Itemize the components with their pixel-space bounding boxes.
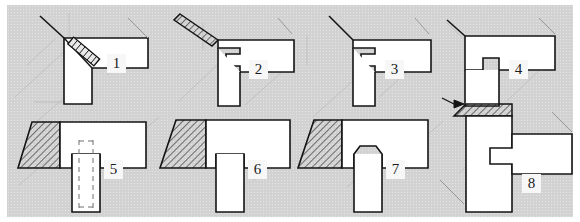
- joint-detail-3: 3: [305, 10, 433, 106]
- panel-number-3: 3: [385, 60, 404, 79]
- joint-detail-2: 2: [166, 10, 296, 106]
- panel-number-7: 7: [386, 160, 405, 179]
- hatched-wedge-7: [298, 120, 342, 168]
- joint-drawing-5: [14, 110, 148, 214]
- joint-drawing-1: [24, 12, 152, 104]
- joint-detail-4: 4: [443, 12, 569, 106]
- joint-detail-6: 6: [158, 110, 292, 214]
- panel-number-5: 5: [104, 160, 123, 179]
- panel-number-6: 6: [248, 160, 267, 179]
- joint-drawing-4: [443, 12, 569, 106]
- joint-detail-8: 8: [440, 96, 576, 214]
- panel-number-4: 4: [509, 60, 528, 79]
- panel-number-1: 1: [107, 54, 126, 73]
- panel-number-8: 8: [522, 174, 541, 193]
- hatched-wedge-6: [160, 120, 206, 168]
- hatched-edge-strip-2: [174, 14, 218, 46]
- hatched-shim-8: [442, 98, 512, 116]
- joint-drawing-8: [440, 96, 576, 214]
- panel-number-2: 2: [249, 60, 268, 79]
- joint-drawing-2: [166, 10, 296, 106]
- joint-detail-1: 1: [24, 12, 152, 104]
- hatched-wedge-5: [18, 122, 60, 168]
- joint-drawing-6: [158, 110, 292, 214]
- joint-drawing-3: [305, 10, 433, 106]
- joint-drawing-7: [298, 110, 432, 214]
- joint-detail-7: 7: [298, 110, 432, 214]
- figure-sheet: 1 2: [0, 0, 580, 222]
- joint-detail-5: 5: [14, 110, 148, 214]
